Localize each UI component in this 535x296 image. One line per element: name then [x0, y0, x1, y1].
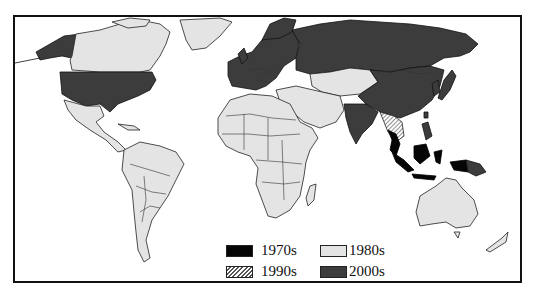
- legend-label: 1990s: [261, 263, 297, 280]
- legend-item-1970s: 1970s: [226, 242, 297, 259]
- legend-item-1990s: 1990s: [226, 263, 297, 280]
- region-russia: [292, 20, 478, 74]
- region-philippines: [422, 122, 432, 140]
- legend-label: 1970s: [261, 242, 297, 259]
- south-america: [122, 142, 184, 262]
- region-madagascar: [306, 184, 316, 206]
- region-sumatra: [392, 152, 414, 172]
- europe: [228, 18, 300, 90]
- legend-label: 2000s: [349, 263, 385, 280]
- region-papua-new-guinea: [466, 160, 486, 176]
- region-india: [344, 104, 378, 144]
- region-taiwan: [424, 112, 428, 118]
- legend-swatch-1980s: [320, 245, 347, 257]
- region-java: [412, 174, 436, 180]
- region-borneo: [414, 144, 430, 164]
- legend-label: 1980s: [349, 242, 385, 259]
- region-sulawesi: [434, 150, 442, 164]
- legend-swatch-1970s: [226, 245, 253, 257]
- region-greenland: [180, 18, 232, 50]
- region-mexico: [64, 100, 126, 152]
- maritime-southeast-asia: [392, 144, 486, 180]
- region-caribbean: [118, 124, 140, 130]
- region-tasmania: [454, 232, 460, 238]
- legend-item-2000s: 2000s: [320, 263, 385, 280]
- legend-swatch-2000s: [320, 266, 347, 278]
- region-new-zealand: [486, 232, 508, 252]
- legend: 1970s 1980s 1990s 2000s: [226, 242, 406, 282]
- region-canada: [70, 20, 170, 72]
- legend-swatch-1990s: [226, 266, 253, 278]
- region-west-papua: [450, 160, 468, 172]
- legend-item-1980s: 1980s: [320, 242, 385, 259]
- oceania: [416, 178, 508, 252]
- north-america: [15, 18, 232, 152]
- region-south-america: [122, 142, 184, 262]
- region-australia: [416, 178, 478, 228]
